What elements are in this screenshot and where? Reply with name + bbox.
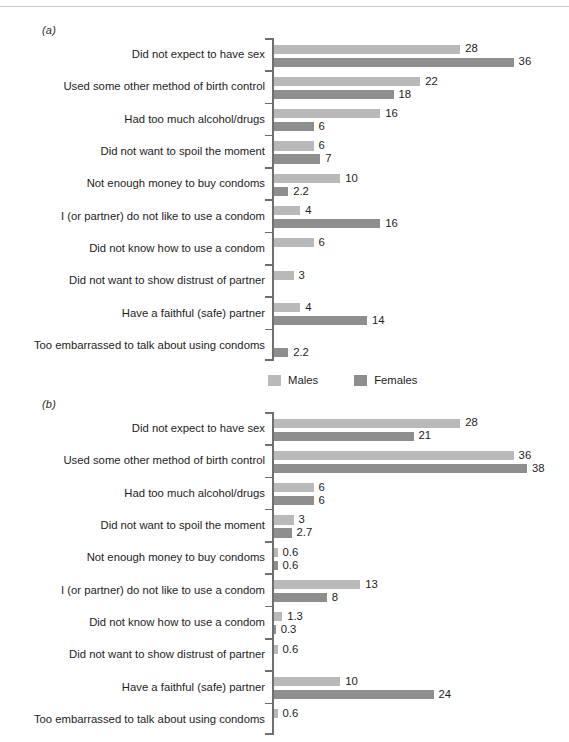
bar-category-row: Used some other method of birth control3…	[0, 444, 569, 476]
chart-panel-a: (a) Did not expect to have sex2836Used s…	[0, 24, 569, 376]
bar-rect	[274, 109, 381, 118]
page-top-rule	[0, 6, 569, 7]
bar-rect	[274, 187, 289, 196]
bar-female: 7	[274, 154, 332, 163]
bar-category-row: Did not expect to have sex2821	[0, 412, 569, 444]
axis-tick	[265, 509, 273, 511]
bar-rect	[274, 90, 394, 99]
bar-value-label: 3	[299, 270, 305, 281]
bar-value-label: 6	[319, 140, 325, 151]
bar-value-label: 10	[345, 173, 358, 184]
axis-tick	[265, 573, 273, 575]
axis-tick	[265, 264, 273, 266]
bar-group: 6	[274, 232, 564, 264]
bar-rect	[274, 515, 294, 524]
bar-group: 3	[274, 264, 564, 296]
bar-rect	[274, 45, 461, 54]
bar-value-label: 36	[519, 450, 532, 461]
chart-legend: Males Females	[268, 374, 417, 386]
bar-female: 2.2	[274, 187, 309, 196]
bar-value-label: 2.7	[297, 527, 313, 538]
chart-panel-b: (b) Did not expect to have sex2821Used s…	[0, 398, 569, 742]
bar-male: 10	[274, 174, 358, 183]
bar-rows-a: Did not expect to have sex2836Used some …	[0, 38, 569, 361]
axis-tick	[265, 670, 273, 672]
bar-value-label: 0.6	[283, 560, 299, 571]
bar-rect	[274, 316, 367, 325]
bar-value-label: 4	[305, 205, 311, 216]
category-label: Not enough money to buy condoms	[87, 177, 265, 190]
bar-rect	[274, 271, 294, 280]
bar-value-label: 6	[319, 482, 325, 493]
bar-value-label: 16	[385, 108, 398, 119]
legend-entry-males: Males	[268, 374, 318, 386]
bar-group: 102.2	[274, 167, 564, 199]
bar-rect	[274, 496, 314, 505]
category-label: Have a faithful (safe) partner	[122, 306, 265, 319]
bar-male: 22	[274, 77, 438, 86]
bar-value-label: 24	[439, 689, 452, 700]
bar-value-label: 18	[399, 89, 412, 100]
bar-category-row: Not enough money to buy condoms0.60.6	[0, 541, 569, 573]
bar-female: 2.2	[274, 348, 309, 357]
bar-rect	[274, 348, 289, 357]
bar-group: 2821	[274, 412, 564, 444]
bar-rect	[274, 528, 292, 537]
bar-male: 28	[274, 45, 478, 54]
category-label: Did not expect to have sex	[132, 48, 265, 61]
axis-tick	[265, 412, 273, 414]
bar-female: 16	[274, 219, 398, 228]
bar-value-label: 6	[319, 495, 325, 506]
bar-category-row: Did not want to show distrust of partner…	[0, 264, 569, 296]
bar-female: 36	[274, 58, 532, 67]
bar-male: 0.6	[274, 709, 299, 718]
category-label: Did not want to show distrust of partner	[69, 648, 265, 661]
bar-value-label: 3	[299, 514, 305, 525]
bar-female: 0.6	[274, 561, 299, 570]
bar-female: 2.7	[274, 528, 313, 537]
bar-group: 414	[274, 296, 564, 328]
axis-tick	[265, 135, 273, 137]
panel-b-tag: (b)	[42, 398, 56, 410]
bar-male: 0.6	[274, 645, 299, 654]
bar-rows-b: Did not expect to have sex2821Used some …	[0, 412, 569, 735]
bar-rect	[274, 677, 341, 686]
bar-male: 16	[274, 109, 398, 118]
bar-category-row: Did not know how to use a condom6	[0, 232, 569, 264]
bar-value-label: 21	[419, 430, 432, 441]
category-label: Did not know how to use a condom	[89, 241, 265, 254]
bar-value-label: 6	[319, 237, 325, 248]
bar-group: 66	[274, 477, 564, 509]
axis-tick	[265, 733, 273, 735]
bar-group: 67	[274, 135, 564, 167]
category-label: Had too much alcohol/drugs	[124, 486, 265, 499]
bar-value-label: 0.6	[283, 547, 299, 558]
bar-group: 1024	[274, 670, 564, 702]
category-label: I (or partner) do not like to use a cond…	[61, 583, 265, 596]
bar-rect	[274, 548, 278, 557]
bar-rect	[274, 77, 421, 86]
bar-group: 416	[274, 199, 564, 231]
bar-category-row: Too embarrassed to talk about using cond…	[0, 703, 569, 735]
bar-female: 6	[274, 496, 325, 505]
bar-group: 3638	[274, 444, 564, 476]
bar-rect	[274, 432, 414, 441]
bar-male: 6	[274, 238, 325, 247]
bar-female: 21	[274, 432, 432, 441]
bar-category-row: Did not want to spoil the moment67	[0, 135, 569, 167]
axis-tick	[265, 703, 273, 705]
bar-male: 36	[274, 451, 532, 460]
bar-rect	[274, 238, 314, 247]
bar-category-row: I (or partner) do not like to use a cond…	[0, 199, 569, 231]
bar-category-row: Have a faithful (safe) partner414	[0, 296, 569, 328]
bar-male: 28	[274, 419, 478, 428]
category-label: Used some other method of birth control	[63, 454, 265, 467]
bar-value-label: 0.6	[283, 644, 299, 655]
bar-rect	[274, 709, 278, 718]
category-label: Did not want to spoil the moment	[100, 145, 265, 158]
bar-female: 14	[274, 316, 385, 325]
bar-group: 2218	[274, 70, 564, 102]
bar-category-row: I (or partner) do not like to use a cond…	[0, 573, 569, 605]
bar-group: 2.2	[274, 329, 564, 361]
bar-rect	[274, 690, 434, 699]
